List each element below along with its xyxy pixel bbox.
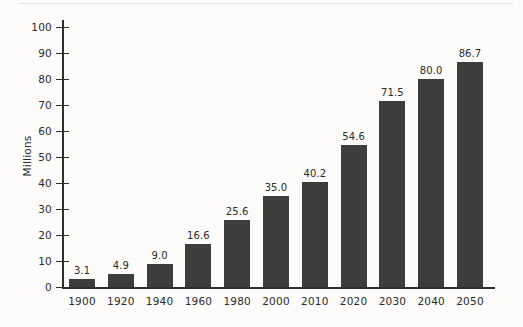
y-axis-tick [56,183,69,184]
bar[interactable] [457,62,483,287]
bar-value-label: 80.0 [409,65,453,76]
bar-group: 35.02000 [263,0,289,327]
bar[interactable] [302,182,328,287]
y-axis-tick-label-wrap: 50 [20,152,52,162]
bar[interactable] [379,101,405,287]
y-axis-tick-label: 100 [24,22,52,32]
x-axis-tick-label: 2040 [409,295,453,307]
bar-group: 9.01940 [147,0,173,327]
y-axis-tick-label-wrap: 100 [20,22,52,32]
bar-value-label: 9.0 [138,250,182,261]
chart-page: Millions 0102030405060708090100 3.119004… [0,0,523,327]
x-axis-tick-label: 1900 [60,295,104,307]
bar-group: 25.61980 [224,0,250,327]
bar-value-label: 16.6 [176,230,220,241]
x-axis-tick-label: 2020 [332,295,376,307]
y-axis-tick-label: 10 [24,256,52,266]
bar[interactable] [69,279,95,287]
x-axis-tick-label: 2030 [370,295,414,307]
y-axis-line [62,20,64,288]
y-axis-tick-label-wrap: 80 [20,74,52,84]
bar-value-label: 25.6 [215,206,259,217]
bar-value-label: 71.5 [370,87,414,98]
y-axis-tick [56,105,69,106]
y-axis-tick [56,209,69,210]
bar-group: 86.72050 [457,0,483,327]
y-axis-tick-label-wrap: 20 [20,230,52,240]
bar-value-label: 54.6 [332,131,376,142]
bar-group: 4.91920 [108,0,134,327]
y-axis-tick-label-wrap: 10 [20,256,52,266]
y-axis-tick-label-wrap: 40 [20,178,52,188]
y-axis-tick-label: 90 [24,48,52,58]
x-axis-tick-label: 1940 [138,295,182,307]
y-axis-tick [56,261,69,262]
y-axis-tick [56,27,69,28]
x-axis-tick-label: 1960 [176,295,220,307]
x-axis-tick-label: 1980 [215,295,259,307]
y-axis-tick-label-wrap: 70 [20,100,52,110]
y-axis-tick [56,235,69,236]
bar-group: 80.02040 [418,0,444,327]
y-axis-tick [56,53,69,54]
bar-group: 71.52030 [379,0,405,327]
bar-value-label: 3.1 [60,265,104,276]
bar-chart: Millions 0102030405060708090100 3.119004… [0,0,523,327]
x-axis-tick-label: 2050 [448,295,492,307]
bar[interactable] [341,145,367,287]
y-axis-tick-label: 70 [24,100,52,110]
y-axis-tick-label-wrap: 30 [20,204,52,214]
bar[interactable] [263,196,289,287]
bar-value-label: 35.0 [254,182,298,193]
y-axis-tick-label-wrap: 60 [20,126,52,136]
y-axis-tick-label: 50 [24,152,52,162]
y-axis-tick-label: 20 [24,230,52,240]
bar-value-label: 86.7 [448,48,492,59]
y-axis-tick-label: 60 [24,126,52,136]
bar[interactable] [147,264,173,287]
bar[interactable] [224,220,250,287]
x-axis-tick-label: 2000 [254,295,298,307]
y-axis-tick-label: 30 [24,204,52,214]
y-axis-tick [56,287,69,288]
y-axis-tick-label: 80 [24,74,52,84]
y-axis-tick-label-wrap: 90 [20,48,52,58]
y-axis-tick [56,79,69,80]
bar-group: 3.11900 [69,0,95,327]
bar-group: 16.61960 [185,0,211,327]
bar-group: 40.22010 [302,0,328,327]
bar-value-label: 4.9 [99,260,143,271]
bar[interactable] [418,79,444,287]
x-axis-tick-label: 2010 [293,295,337,307]
y-axis-tick-label: 40 [24,178,52,188]
bar-value-label: 40.2 [293,168,337,179]
y-axis-tick [56,131,69,132]
y-axis-tick-label: 0 [24,282,52,292]
bar[interactable] [185,244,211,287]
bar-group: 54.62020 [341,0,367,327]
y-axis-tick-label-wrap: 0 [20,282,52,292]
bar[interactable] [108,274,134,287]
x-axis-tick-label: 1920 [99,295,143,307]
y-axis-tick [56,157,69,158]
